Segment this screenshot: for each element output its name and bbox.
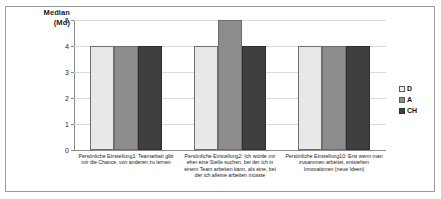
y-axis-title: Median (Md)	[8, 8, 70, 27]
bar-d[interactable]	[194, 46, 218, 150]
legend-label: CH	[407, 107, 417, 114]
y-tick-label-0: 0	[65, 147, 69, 154]
y-tick-label-1: 1	[65, 121, 69, 128]
plot-inner: 543210	[74, 20, 386, 150]
bar-ch[interactable]	[346, 46, 370, 150]
y-tick-label-3: 3	[65, 69, 69, 76]
y-tick-label-4: 4	[65, 43, 69, 50]
y-tick-label-2: 2	[65, 95, 69, 102]
y-tick-label-5: 5	[65, 17, 69, 24]
bar-group	[74, 20, 178, 150]
y-tick-mark-0	[71, 150, 74, 151]
bar-a[interactable]	[114, 46, 138, 150]
x-category-label: Persönliche Einstellung2: Ich würde mir …	[181, 153, 279, 179]
bar-ch[interactable]	[138, 46, 162, 150]
legend-swatch-icon	[399, 108, 405, 114]
legend-label: A	[407, 96, 412, 103]
legend-item-a[interactable]: A	[399, 95, 417, 104]
plot-area: 543210 Persönliche Einstellung1: Teamarb…	[74, 20, 386, 150]
bar-a[interactable]	[322, 46, 346, 150]
legend-item-ch[interactable]: CH	[399, 106, 417, 115]
y-axis-title-line-1: Median	[8, 8, 70, 18]
bar-d[interactable]	[90, 46, 114, 150]
legend-swatch-icon	[399, 97, 405, 103]
legend-swatch-icon	[399, 86, 405, 92]
legend: DACH	[399, 84, 417, 117]
chart-figure: Median (Md) 543210 Persönliche Einstellu…	[0, 0, 441, 199]
gridline-0	[74, 150, 386, 151]
y-axis-title-line-2: (Md)	[8, 18, 70, 28]
x-category-label: Persönliche Einstellung10: Erst wenn man…	[285, 153, 383, 172]
x-category-label: Persönliche Einstellung1: Teamarbeit gib…	[77, 153, 175, 166]
bar-group	[282, 20, 386, 150]
bar-a[interactable]	[218, 20, 242, 150]
bar-d[interactable]	[298, 46, 322, 150]
legend-item-d[interactable]: D	[399, 84, 417, 93]
bar-group	[178, 20, 282, 150]
bar-ch[interactable]	[242, 46, 266, 150]
legend-label: D	[407, 85, 412, 92]
